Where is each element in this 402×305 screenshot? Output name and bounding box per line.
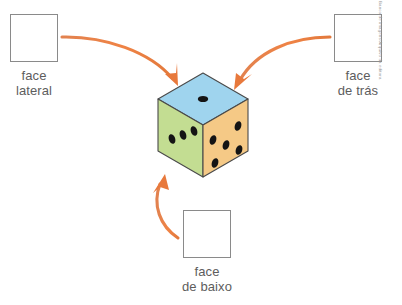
illustration-canvas: face lateral face de trás face de baixo … (0, 0, 402, 305)
answer-box-face-lateral[interactable] (10, 14, 58, 62)
pip-top-1 (198, 96, 208, 102)
answer-box-face-de-baixo[interactable] (183, 210, 231, 258)
image-credit: Banco de imagens/Arquivo da editora (377, 1, 383, 121)
caption-line-2: lateral (0, 83, 89, 98)
caption-face-de-baixo: face de baixo (152, 264, 262, 294)
caption-line-2: de baixo (152, 279, 262, 294)
caption-line-1: face (303, 68, 402, 83)
caption-face-de-tras: face de trás (303, 68, 402, 98)
caption-line-1: face (0, 68, 89, 83)
caption-line-1: face (152, 264, 262, 279)
answer-box-face-de-tras[interactable] (334, 14, 382, 62)
caption-line-2: de trás (303, 83, 402, 98)
caption-face-lateral: face lateral (0, 68, 89, 98)
